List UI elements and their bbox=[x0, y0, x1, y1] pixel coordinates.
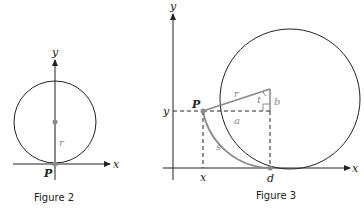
fig3-point-p-label: P bbox=[191, 98, 201, 111]
fig3-point-p-dot bbox=[201, 109, 206, 114]
fig2-point-p-dot bbox=[53, 162, 58, 167]
fig3-y-tick-label: y bbox=[162, 105, 170, 118]
fig2-center-dot bbox=[53, 120, 58, 125]
fig3-angle-arc bbox=[263, 92, 266, 97]
fig3-angle-label: t bbox=[257, 94, 262, 105]
fig3-leg-b-label: b bbox=[274, 96, 280, 107]
diagram-canvas: y x r P Figure 2 y x y x d P r t bbox=[0, 0, 364, 212]
fig2-x-axis-label: x bbox=[113, 158, 120, 171]
fig3-right-angle-mark bbox=[263, 104, 270, 111]
fig3-y-axis-label: y bbox=[169, 0, 177, 13]
figure-3: y x y x d P r t b a s Figure 3 bbox=[162, 0, 360, 201]
fig2-y-axis-label: y bbox=[51, 46, 59, 59]
fig2-radius-label: r bbox=[59, 137, 65, 148]
figure-2: y x r P Figure 2 bbox=[13, 46, 120, 203]
fig2-caption: Figure 2 bbox=[34, 192, 74, 203]
fig3-arc-s-label: s bbox=[216, 141, 221, 152]
fig2-point-p-label: P bbox=[43, 167, 53, 180]
fig3-contact-label: d bbox=[267, 172, 274, 185]
fig3-x-axis-label: x bbox=[352, 162, 359, 175]
fig3-radius-label: r bbox=[234, 88, 240, 99]
fig3-x-tick-label: x bbox=[200, 171, 207, 184]
fig3-caption: Figure 3 bbox=[256, 190, 296, 201]
fig3-leg-a-label: a bbox=[234, 115, 240, 126]
fig3-point-d-dot bbox=[268, 166, 273, 171]
